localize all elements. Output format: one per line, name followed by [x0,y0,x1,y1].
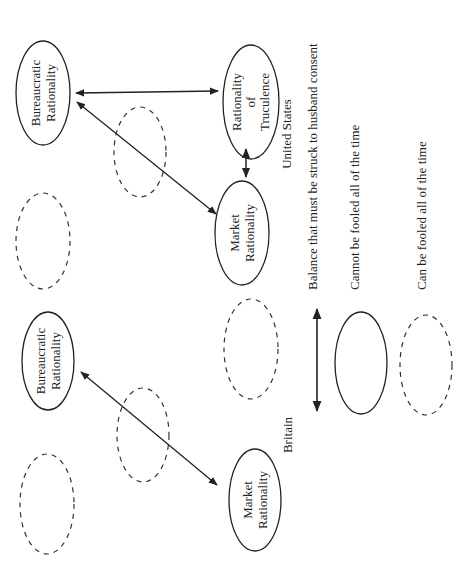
legend-dashed-ellipse [400,315,452,415]
dashed-ellipse [224,299,278,399]
double-arrow [77,102,216,214]
dashed-ellipse [20,454,74,554]
node-label-line2: Rationality [242,204,257,262]
britain-bureaucratic-node: Bureaucratic Rationality [22,312,74,410]
node-label-line1: Bureaucratic [33,328,48,395]
legend-solid-ellipse [335,312,387,414]
node-label-line1: Bureaucratic [28,60,43,127]
diagram-canvas: Bureaucratic Rationality Rationality of … [0,0,466,569]
legend-dashed-label: Can be fooled all of the time [414,141,429,290]
legend-solid-label: Cannot be fooled all of the time [347,124,362,290]
node-label-line1: Rationality [229,73,244,131]
node-label-line2: Rationality [255,471,270,529]
node-label-line1: Market [227,214,242,252]
dashed-ellipse [16,193,70,289]
node-label-line2: Rationality [43,64,58,122]
dashed-ellipse [117,388,169,482]
node-label-line2: Rationality [48,332,63,390]
panel-label-britain: Britain [280,416,295,453]
us-market-node: Market Rationality [215,181,269,285]
panel-label-us: United States [279,99,294,169]
node-label-line2: of [243,96,258,108]
britain-panel: Bureaucratic Rationality Market Rational… [20,299,295,554]
double-arrow [76,91,218,93]
britain-market-node: Market Rationality [229,449,281,551]
us-truculence-node: Rationality of Truculence [223,45,279,159]
node-label-line1: Market [240,481,255,519]
node-label-line3: Truculence [257,73,272,131]
us-panel: Bureaucratic Rationality Rationality of … [16,41,294,289]
us-bureaucratic-node: Bureaucratic Rationality [16,41,70,145]
legend-arrow-label: Balance that must be struck to husband c… [305,43,320,290]
legend: Balance that must be struck to husband c… [305,43,452,415]
